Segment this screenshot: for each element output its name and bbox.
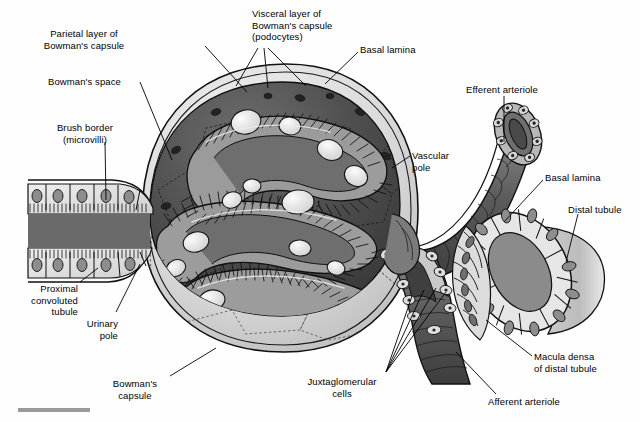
label-proximal-tubule: Proximal convoluted tubule: [6, 283, 78, 318]
label-afferent-arteriole: Afferent arteriole: [488, 396, 592, 408]
label-vascular-pole: Vascular pole: [412, 150, 472, 173]
label-urinary-pole: Urinary pole: [66, 318, 118, 341]
proximal-tubule: [28, 180, 153, 282]
label-bowmans-capsule: Bowman's capsule: [100, 378, 170, 401]
label-macula-densa: Macula densa of distal tubule: [534, 351, 638, 374]
label-bowmans-space: Bowman's space: [48, 76, 144, 88]
label-efferent-arteriole: Efferent arteriole: [466, 84, 576, 96]
label-basal-lamina-top: Basal lamina: [360, 44, 440, 56]
scale-bar: [18, 408, 90, 412]
label-visceral-layer: Visceral layer of Bowman's capsule (podo…: [252, 8, 372, 43]
figure-canvas: Parietal layer of Bowman's capsule Visce…: [0, 0, 640, 422]
label-brush-border: Brush border (microvilli): [36, 122, 134, 145]
label-parietal-layer: Parietal layer of Bowman's capsule: [24, 28, 144, 51]
label-juxtaglomerular-cells: Juxtaglomerular cells: [296, 376, 388, 399]
label-basal-lamina-right: Basal lamina: [545, 172, 635, 184]
label-distal-tubule: Distal tubule: [568, 204, 640, 216]
